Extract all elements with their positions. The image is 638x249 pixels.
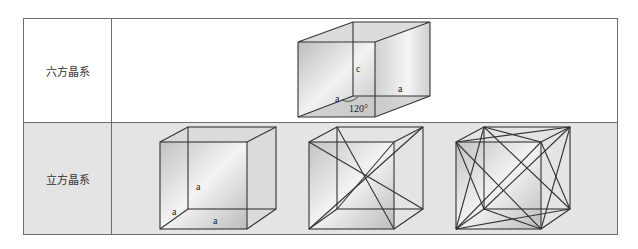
cubic-cells-diagram: a a a xyxy=(112,123,618,234)
row-label: 立方晶系 xyxy=(24,123,112,234)
svg-text:a: a xyxy=(196,181,201,192)
crystal-system-table: 六方晶系 xyxy=(23,18,618,235)
label-a: a xyxy=(398,83,403,94)
body-centered-cubic-figure xyxy=(309,127,423,229)
svg-text:a: a xyxy=(213,215,218,226)
simple-cubic-figure: a a a xyxy=(160,127,276,229)
label-c: c xyxy=(356,63,361,74)
label-angle: 120° xyxy=(349,103,368,114)
hexagonal-cell-diagram: c a a 120° xyxy=(112,19,618,123)
label-a: a xyxy=(335,93,340,104)
figure-cell: a a a xyxy=(112,123,617,234)
row-label: 六方晶系 xyxy=(24,19,112,122)
figure-cell: c a a 120° xyxy=(112,19,617,122)
face-centered-cubic-figure xyxy=(456,127,570,229)
table-row-cubic: 立方晶系 xyxy=(24,123,617,234)
svg-text:a: a xyxy=(172,206,177,217)
table-row-hexagonal: 六方晶系 xyxy=(24,19,617,123)
